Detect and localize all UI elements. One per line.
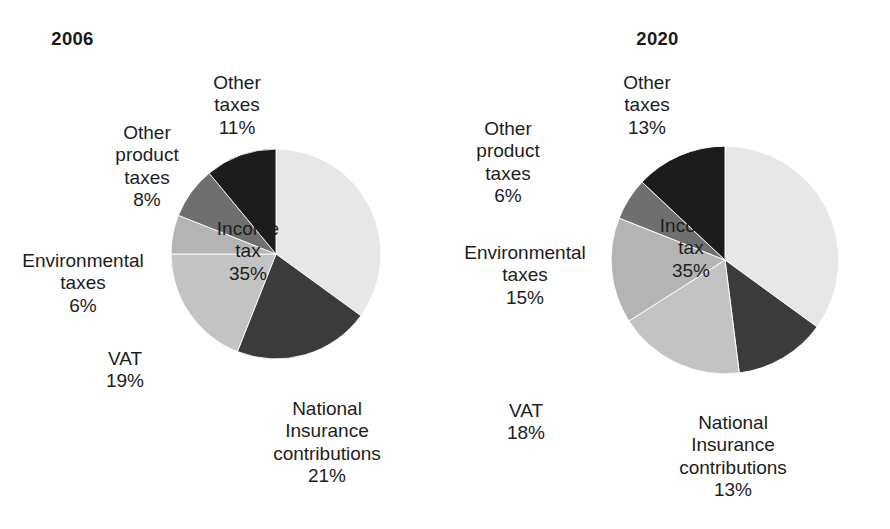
pie-label-environmental-taxes-2006: Environmental taxes 6%	[8, 250, 158, 317]
pie-label-other-taxes-2006: Other taxes 11%	[185, 72, 289, 139]
chart-title-2020: 2020	[435, 28, 880, 50]
pie-label-other-taxes-2020: Other taxes 13%	[595, 72, 699, 139]
pie-label-national-insurance-2020: National Insurance contributions 13%	[653, 412, 813, 502]
pie-label-national-insurance-2006: National Insurance contributions 21%	[247, 398, 407, 488]
pie-label-vat-2020: VAT 18%	[493, 400, 559, 445]
pie-label-vat-2006: VAT 19%	[92, 348, 158, 393]
pie-chart-figure: 2006 Income tax 35% National Insurance c…	[0, 0, 890, 529]
chart-panel-2020: 2020 Income tax 35% National Insurance c…	[445, 0, 890, 529]
chart-title-2006: 2006	[0, 28, 295, 50]
chart-panel-2006: 2006 Income tax 35% National Insurance c…	[0, 0, 445, 529]
pie-label-income-tax-2020: Income tax 35%	[643, 215, 739, 282]
pie-label-income-tax-2006: Income tax 35%	[200, 218, 296, 285]
pie-label-other-product-taxes-2020: Other product taxes 6%	[453, 118, 563, 208]
pie-label-environmental-taxes-2020: Environmental taxes 15%	[435, 242, 615, 309]
